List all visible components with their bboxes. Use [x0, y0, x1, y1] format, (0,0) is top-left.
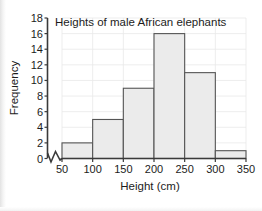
x-tick-label: 100 — [83, 163, 101, 175]
y-tick-label: 0 — [37, 153, 43, 165]
x-tick-label: 300 — [206, 163, 224, 175]
y-tick-label: 4 — [37, 121, 43, 133]
x-axis-title: Height (cm) — [120, 180, 180, 192]
axis-break-icon — [48, 152, 63, 163]
histogram-bar — [215, 151, 246, 159]
y-tick-label: 18 — [31, 12, 43, 24]
histogram-bar — [62, 143, 93, 159]
y-tick-label: 12 — [31, 59, 43, 71]
histogram-bar — [154, 34, 185, 159]
x-tick-label: 200 — [145, 163, 163, 175]
histogram-chart: 024681012141618 50100150200250300350 Hei… — [0, 0, 262, 211]
histogram-figure: 024681012141618 50100150200250300350 Hei… — [0, 0, 262, 211]
y-axis-title: Frequency — [8, 61, 20, 116]
x-tick-label: 350 — [237, 163, 255, 175]
y-tick-label: 14 — [31, 43, 43, 55]
y-tick-label: 16 — [31, 28, 43, 40]
x-tick-label: 150 — [114, 163, 132, 175]
histogram-bar — [93, 119, 124, 158]
left-edge-shading — [0, 0, 6, 211]
x-tick-labels-group: 50100150200250300350 — [56, 163, 255, 175]
chart-title: Heights of male African elephants — [55, 16, 227, 28]
histogram-bar — [123, 88, 154, 158]
histogram-bar — [185, 73, 216, 159]
y-tick-label: 6 — [37, 106, 43, 118]
y-tick-label: 8 — [37, 90, 43, 102]
y-tick-label: 2 — [37, 137, 43, 149]
y-tick-labels-group: 024681012141618 — [31, 12, 43, 165]
y-tick-label: 10 — [31, 74, 43, 86]
x-tick-label: 250 — [175, 163, 193, 175]
bottom-edge-shading — [0, 207, 262, 211]
x-tick-label: 50 — [56, 163, 68, 175]
